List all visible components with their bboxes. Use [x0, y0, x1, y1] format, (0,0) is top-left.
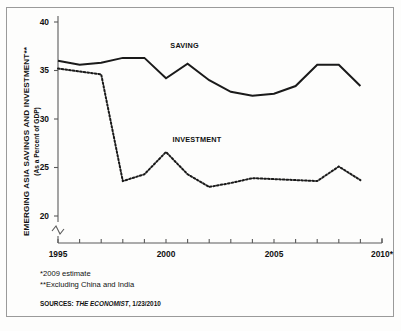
- source-prefix: SOURCES:: [40, 300, 74, 307]
- y-tick-label: 30: [31, 114, 49, 124]
- source-publication: THE ECONOMIST: [76, 300, 129, 307]
- y-axis-title-sub: (As a Percent of GDP): [32, 47, 41, 236]
- source-date: , 1/23/2010: [129, 300, 161, 307]
- figure-container: EMERGING ASIA SAVINGS AND INVESTMENT** (…: [0, 0, 401, 331]
- footnote-estimate-text: 2009 estimate: [43, 269, 91, 278]
- footnote-exclusion-text: Excluding China and India: [46, 280, 134, 289]
- footnote-block: *2009 estimate **Excluding China and Ind…: [40, 268, 340, 290]
- x-tick-label: 2000: [146, 249, 186, 259]
- series-label-saving: SAVING: [170, 41, 199, 50]
- footnote-estimate: *2009 estimate: [40, 268, 340, 279]
- y-axis-title: EMERGING ASIA SAVINGS AND INVESTMENT** (…: [9, 18, 39, 238]
- x-tick-label: 2010*: [362, 249, 401, 259]
- y-tick-label: 35: [31, 65, 49, 75]
- x-tick-label: 2005: [254, 249, 294, 259]
- x-tick-label: 1995: [38, 249, 78, 259]
- y-axis-title-main: EMERGING ASIA SAVINGS AND INVESTMENT**: [22, 47, 32, 236]
- y-tick-label: 25: [31, 162, 49, 172]
- footnote-exclusion: **Excluding China and India: [40, 279, 340, 290]
- series-label-investment: INVESTMENT: [172, 135, 221, 144]
- y-tick-label: 20: [31, 211, 49, 221]
- y-tick-label: 40: [31, 17, 49, 27]
- source-line: SOURCES: THE ECONOMIST, 1/23/2010: [40, 300, 161, 307]
